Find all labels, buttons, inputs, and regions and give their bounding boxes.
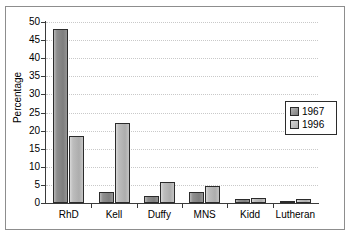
y-axis-tick xyxy=(41,40,46,41)
y-axis-tick-label: 50 xyxy=(10,17,40,27)
bar-lutheran-1967 xyxy=(280,201,295,203)
bar-chart-figure: 05101520253035404550 Percentage 19671996… xyxy=(0,0,355,243)
y-axis-tick-label: 45 xyxy=(10,35,40,45)
y-axis-tick xyxy=(41,113,46,114)
y-axis-title: Percentage xyxy=(12,50,23,146)
gridline xyxy=(46,76,318,77)
x-axis-category-label-mns: MNS xyxy=(182,209,227,220)
gridline xyxy=(46,167,318,168)
bar-kell-1967 xyxy=(99,192,114,203)
gridline xyxy=(46,113,318,114)
legend-item-1967: 1967 xyxy=(290,105,332,118)
y-axis-tick-label: 5 xyxy=(10,180,40,190)
y-axis-tick xyxy=(41,167,46,168)
y-axis-tick xyxy=(41,22,46,23)
gridline xyxy=(46,94,318,95)
bar-lutheran-1996 xyxy=(296,199,311,203)
x-axis-category-label-kidd: Kidd xyxy=(227,209,272,220)
legend-label: 1996 xyxy=(302,119,324,130)
x-axis-tick xyxy=(273,203,274,208)
gridline xyxy=(46,185,318,186)
gridline xyxy=(46,22,318,23)
bar-duffy-1967 xyxy=(144,196,159,203)
bar-duffy-1996 xyxy=(160,182,175,203)
bar-rhd-1967 xyxy=(53,29,68,203)
gridline xyxy=(46,131,318,132)
x-axis-tick xyxy=(182,203,183,208)
x-axis-category-label-lutheran: Lutheran xyxy=(273,209,318,220)
y-axis-tick xyxy=(41,185,46,186)
bar-mns-1996 xyxy=(205,186,220,203)
bar-rhd-1996 xyxy=(69,136,84,203)
bar-kidd-1967 xyxy=(235,199,250,203)
gridline xyxy=(46,58,318,59)
y-axis-tick xyxy=(41,76,46,77)
gridline xyxy=(46,149,318,150)
legend-item-1996: 1996 xyxy=(290,118,332,131)
y-axis-tick xyxy=(41,58,46,59)
legend-label: 1967 xyxy=(302,106,324,117)
x-axis-tick xyxy=(91,203,92,208)
x-axis-category-label-kell: Kell xyxy=(91,209,136,220)
legend-swatch-icon-1996 xyxy=(290,120,299,129)
bar-mns-1967 xyxy=(189,192,204,203)
legend-swatch-icon-1967 xyxy=(290,107,299,116)
x-axis-tick xyxy=(227,203,228,208)
bar-kidd-1996 xyxy=(251,198,266,203)
x-axis-category-label-duffy: Duffy xyxy=(137,209,182,220)
bar-kell-1996 xyxy=(115,123,130,203)
x-axis-tick xyxy=(137,203,138,208)
y-axis-tick xyxy=(41,94,46,95)
y-axis-tick xyxy=(41,131,46,132)
gridline xyxy=(46,40,318,41)
x-axis-category-label-rhd: RhD xyxy=(46,209,91,220)
plot-area xyxy=(46,22,318,203)
y-axis-tick-label: 10 xyxy=(10,162,40,172)
y-axis-tick xyxy=(41,149,46,150)
chart-legend: 19671996 xyxy=(285,101,337,135)
y-axis-tick-label: 0 xyxy=(10,198,40,208)
y-axis-tick xyxy=(41,203,46,204)
